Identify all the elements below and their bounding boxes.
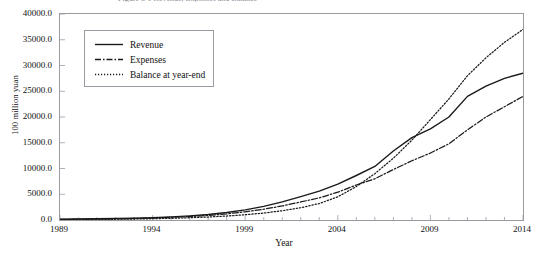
y-tick-label: 15000.0 bbox=[0, 137, 52, 147]
x-tick-label: 1989 bbox=[50, 224, 68, 234]
y-tick-label: 25000.0 bbox=[0, 85, 52, 95]
x-tick-label: 1994 bbox=[143, 224, 161, 234]
y-tick-label: 40000.0 bbox=[0, 8, 52, 18]
x-tick-label: 2014 bbox=[513, 224, 531, 234]
y-tick-label: 30000.0 bbox=[0, 60, 52, 70]
legend-label-expenses: Expenses bbox=[130, 55, 166, 65]
x-tick-label: 2009 bbox=[420, 224, 438, 234]
series-line-revenue bbox=[60, 73, 523, 219]
chart-figure: Figure 3-1 Revenue, Expenses and Balance… bbox=[0, 0, 537, 253]
legend-item-expenses: Expenses bbox=[94, 52, 166, 67]
legend-swatch-revenue bbox=[94, 40, 124, 49]
legend-item-balance: Balance at year-end bbox=[94, 67, 205, 82]
figure-title: Figure 3-1 Revenue, Expenses and Balance bbox=[118, 0, 438, 2]
legend-label-revenue: Revenue bbox=[130, 40, 163, 50]
x-axis-title: Year bbox=[44, 238, 524, 248]
y-tick-label: 35000.0 bbox=[0, 34, 52, 44]
legend-swatch-expenses bbox=[94, 55, 124, 64]
y-tick-label: 0.0 bbox=[0, 214, 52, 224]
legend-item-revenue: Revenue bbox=[94, 37, 163, 52]
legend-swatch-balance bbox=[94, 70, 124, 79]
y-tick-label: 10000.0 bbox=[0, 163, 52, 173]
chart-legend: Revenue Expenses Balance at year-end bbox=[84, 30, 214, 87]
x-tick-label: 2004 bbox=[328, 224, 346, 234]
x-tick-label: 1999 bbox=[235, 224, 253, 234]
series-line-expenses bbox=[60, 96, 523, 219]
legend-label-balance: Balance at year-end bbox=[130, 70, 205, 80]
y-tick-label: 5000.0 bbox=[0, 188, 52, 198]
y-tick-label: 20000.0 bbox=[0, 111, 52, 121]
